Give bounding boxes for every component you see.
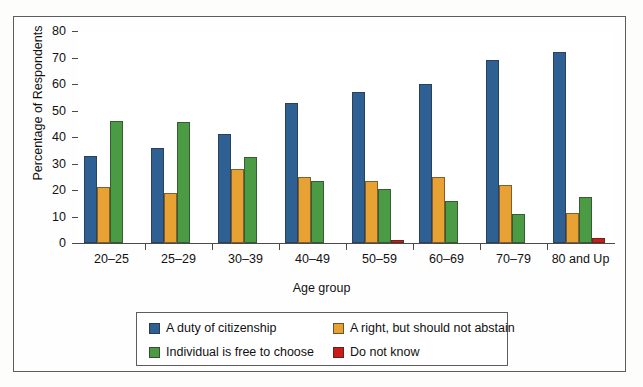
bar[interactable] [84,156,97,243]
x-axis-tick-label: 50–59 [346,252,413,266]
y-axis-tick-label: 50 [38,105,66,118]
bar[interactable] [445,201,458,243]
bar[interactable] [378,189,391,243]
chart-legend: A duty of citizenship A right, but shoul… [136,312,508,366]
x-axis-separator [145,244,146,250]
y-axis-tick-label: 60 [38,78,66,91]
bar-group [78,31,145,243]
bar-group [145,31,212,243]
bar[interactable] [553,52,566,243]
bar[interactable] [432,177,445,243]
legend-row: Individual is free to choose Do not know [137,341,507,364]
legend-item-duty[interactable]: A duty of citizenship [149,317,276,340]
x-axis-separator [346,244,347,250]
bar[interactable] [298,177,311,243]
x-axis-tick-label: 60–69 [413,252,480,266]
bar-group [480,31,547,243]
legend-label-free-choose: Individual is free to choose [166,346,314,359]
bar[interactable] [244,157,257,243]
bar-group [413,31,480,243]
legend-label-right: A right, but should not abstain [350,322,515,335]
bar[interactable] [164,193,177,243]
bar[interactable] [592,238,605,243]
bar-group [547,31,614,243]
bar-group [279,31,346,243]
bar[interactable] [285,103,298,243]
bar[interactable] [311,181,324,243]
y-axis-tick-label: 10 [38,211,66,224]
bar[interactable] [231,169,244,243]
x-axis-tick-label: 30–39 [212,252,279,266]
legend-label-duty: A duty of citizenship [166,322,276,335]
bar[interactable] [566,213,579,243]
y-axis-tick [72,243,78,244]
bar[interactable] [499,185,512,243]
x-axis-tick-label: 25–29 [145,252,212,266]
bar[interactable] [512,214,525,243]
bar-group [346,31,413,243]
y-axis-tick-label: 0 [38,237,66,250]
y-axis-tick-label: 20 [38,184,66,197]
y-axis-tick-label: 70 [38,52,66,65]
legend-item-free-choose[interactable]: Individual is free to choose [149,341,314,364]
legend-item-dont-know[interactable]: Do not know [333,341,419,364]
bar[interactable] [391,240,404,243]
bar[interactable] [486,60,499,243]
legend-swatch-duty [149,323,160,334]
bar-group [212,31,279,243]
y-axis-tick-label: 40 [38,131,66,144]
x-axis-tick-label: 70–79 [480,252,547,266]
x-axis-tick-label: 80 and Up [547,252,614,266]
legend-swatch-right [333,323,344,334]
x-axis-separator [480,244,481,250]
x-axis-separator [413,244,414,250]
bar[interactable] [97,187,110,243]
x-axis-title: Age group [0,281,643,295]
bar[interactable] [352,92,365,243]
legend-swatch-free-choose [149,347,160,358]
plot-area [78,31,614,243]
bar[interactable] [151,148,164,243]
bar[interactable] [365,181,378,243]
legend-row: A duty of citizenship A right, but shoul… [137,317,507,340]
legend-label-dont-know: Do not know [350,346,419,359]
x-axis-tick-label: 20–25 [78,252,145,266]
x-axis-tick-label: 40–49 [279,252,346,266]
y-axis-tick-label: 30 [38,158,66,171]
x-axis-separator [279,244,280,250]
legend-item-right[interactable]: A right, but should not abstain [333,317,515,340]
y-axis-tick-label: 80 [38,25,66,38]
legend-swatch-dont-know [333,347,344,358]
bar[interactable] [110,121,123,243]
bar[interactable] [218,134,231,243]
x-axis-separator [212,244,213,250]
bar[interactable] [177,122,190,243]
bar[interactable] [579,197,592,243]
bar[interactable] [419,84,432,243]
figure-container: Percentage of Respondents 01020304050607… [0,0,643,387]
x-axis-separator [547,244,548,250]
